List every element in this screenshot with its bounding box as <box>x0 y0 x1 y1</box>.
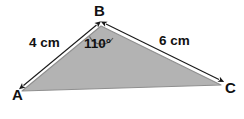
vertex-label-c: C <box>225 80 236 95</box>
angle-measure-label-b: 110° <box>84 37 111 51</box>
side-length-label-bc: 6 cm <box>159 34 190 48</box>
geometry-diagram: B A C 4 cm 6 cm 110° <box>0 0 244 119</box>
diagram-canvas <box>0 0 244 119</box>
side-length-label-ab: 4 cm <box>29 36 60 50</box>
vertex-label-b: B <box>94 3 105 18</box>
vertex-label-a: A <box>12 87 23 102</box>
